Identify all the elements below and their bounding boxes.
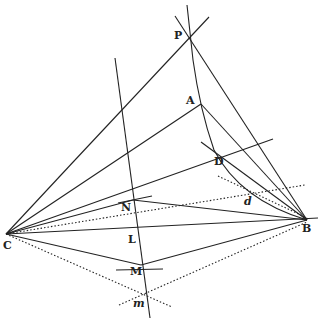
label-D: D: [214, 156, 224, 167]
label-N: N: [121, 202, 131, 213]
label-M: M: [130, 266, 142, 277]
label-m: m: [133, 298, 145, 309]
label-C: C: [3, 240, 12, 251]
label-B: B: [302, 223, 311, 234]
label-A: A: [186, 95, 195, 106]
line-NLM-axis: [115, 58, 150, 318]
line-P-B: [175, 16, 307, 220]
curve-P-A-D-B: [187, 5, 307, 220]
line-C-D: [6, 139, 273, 234]
label-L: L: [128, 234, 136, 245]
diagram-lines: [0, 0, 324, 318]
dotted-C-m: [6, 234, 172, 307]
line-C-B: [6, 218, 318, 234]
geometric-diagram: P A D d N L M m C B: [0, 0, 324, 318]
label-d: d: [244, 196, 252, 207]
line-M-B: [141, 220, 307, 265]
line-D-B: [201, 142, 307, 220]
line-C-P: [6, 160, 75, 234]
label-P: P: [174, 30, 182, 41]
line-C-M: [6, 234, 141, 265]
line-C-A: [6, 104, 201, 234]
